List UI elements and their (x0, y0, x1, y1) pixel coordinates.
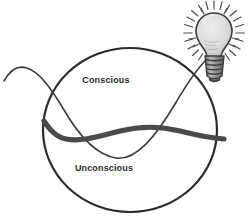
lightbulb-glass-icon (196, 13, 232, 57)
diagram-canvas (0, 0, 252, 223)
unconscious-region-label: Unconscious (0, 163, 230, 173)
conscious-region-label: Conscious (0, 75, 232, 85)
consciousness-threshold-wave (44, 121, 224, 140)
mind-diagram: Conscious Unconscious (0, 0, 252, 223)
